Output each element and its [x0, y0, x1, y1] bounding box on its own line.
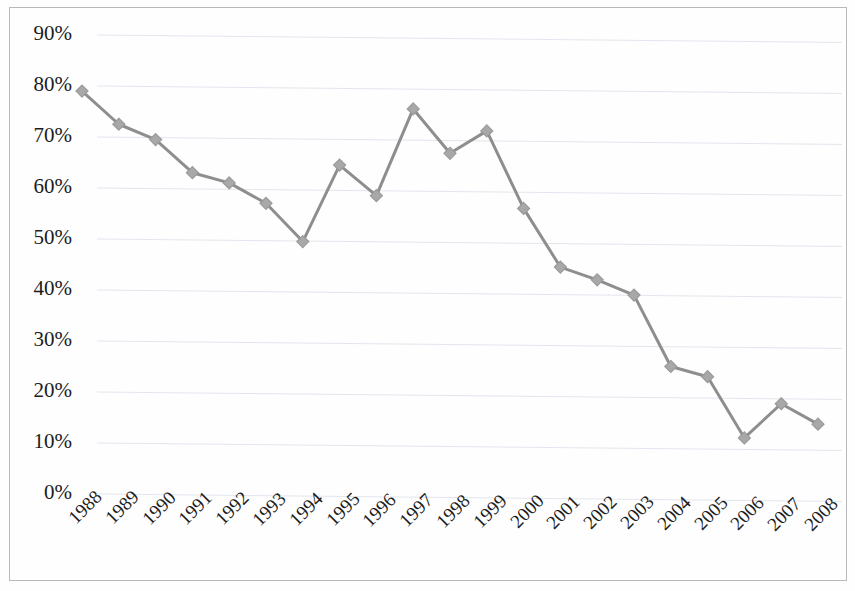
gridline — [97, 35, 842, 42]
y-tick-label: 60% — [14, 174, 72, 199]
y-tick-label: 90% — [14, 21, 72, 46]
gridline — [97, 341, 842, 348]
data-point-marker — [812, 418, 824, 430]
gridline — [97, 188, 842, 195]
y-tick-label: 30% — [14, 327, 72, 352]
chart-figure: 0%10%20%30%40%50%60%70%80%90% 1988198919… — [0, 0, 855, 591]
y-tick-label: 40% — [14, 276, 72, 301]
data-point-marker — [665, 361, 677, 373]
y-tick-label: 80% — [14, 72, 72, 97]
data-point-marker — [223, 177, 235, 189]
data-point-marker — [628, 289, 640, 301]
y-tick-label: 0% — [14, 480, 72, 505]
data-markers — [76, 85, 824, 444]
gridline — [97, 392, 842, 399]
y-tick-label: 20% — [14, 378, 72, 403]
y-tick-label: 50% — [14, 225, 72, 250]
y-tick-label: 70% — [14, 123, 72, 148]
gridline — [97, 86, 842, 93]
gridline — [97, 443, 842, 450]
y-tick-label: 10% — [14, 429, 72, 454]
gridline — [97, 290, 842, 297]
data-point-marker — [591, 274, 603, 286]
gridlines — [97, 35, 842, 501]
gridline — [97, 239, 842, 246]
